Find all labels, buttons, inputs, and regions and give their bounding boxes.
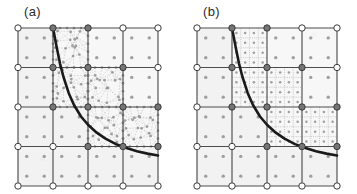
subgrid-node bbox=[270, 81, 273, 84]
subgrid-node bbox=[270, 140, 273, 143]
unstructured-node bbox=[110, 133, 113, 136]
grid-node-filled bbox=[229, 104, 235, 110]
cell-interior-dot bbox=[43, 95, 46, 98]
cell-interior-dot bbox=[25, 135, 28, 138]
cell-interior-dot bbox=[78, 174, 81, 177]
unstructured-node bbox=[84, 74, 87, 77]
subgrid-node bbox=[253, 32, 256, 34]
grid-node-open bbox=[15, 143, 21, 149]
subgrid-node bbox=[270, 121, 273, 124]
grid-cell bbox=[197, 68, 232, 108]
cell-interior-dot bbox=[25, 155, 28, 158]
unstructured-node bbox=[140, 127, 143, 130]
panel-a: (a) bbox=[0, 0, 178, 194]
unstructured-node bbox=[69, 30, 72, 33]
unstructured-node bbox=[56, 97, 59, 100]
cell-interior-dot bbox=[309, 36, 312, 39]
cell-interior-dot bbox=[43, 135, 46, 138]
subgrid-node bbox=[305, 130, 308, 133]
grid-cell bbox=[123, 68, 158, 108]
subgrid-node bbox=[323, 111, 326, 114]
cell-interior-dot bbox=[239, 174, 242, 177]
grid-node-open bbox=[299, 25, 305, 31]
panel-b: (b) bbox=[179, 0, 357, 194]
cell-interior-dot bbox=[204, 115, 207, 118]
grid-cell bbox=[53, 147, 88, 187]
grid-cell bbox=[18, 147, 53, 187]
unstructured-node bbox=[91, 96, 94, 99]
subgrid-node bbox=[253, 61, 256, 64]
grid-cell bbox=[18, 28, 53, 68]
cell-interior-dot bbox=[239, 155, 242, 158]
unstructured-node bbox=[146, 125, 149, 128]
cell-interior-dot bbox=[274, 174, 277, 177]
cell-interior-dot bbox=[292, 56, 295, 59]
grid-node-open bbox=[229, 143, 235, 149]
cell-interior-dot bbox=[327, 76, 330, 79]
cell-interior-dot bbox=[257, 174, 260, 177]
grid-node-filled bbox=[85, 104, 91, 110]
grid-node-filled bbox=[264, 64, 270, 70]
subgrid-node bbox=[244, 101, 247, 104]
cell-interior-dot bbox=[327, 36, 330, 39]
grid-node-open bbox=[85, 183, 91, 189]
subgrid-node bbox=[314, 111, 317, 114]
cell-interior-dot bbox=[327, 56, 330, 59]
cell-interior-dot bbox=[25, 56, 28, 59]
subgrid-node bbox=[279, 71, 282, 74]
cell-interior-dot bbox=[257, 135, 260, 138]
unstructured-node bbox=[98, 79, 101, 82]
unstructured-node bbox=[149, 116, 152, 119]
cell-interior-dot bbox=[239, 135, 242, 138]
unstructured-node bbox=[62, 61, 65, 64]
subgrid-node bbox=[235, 71, 238, 74]
subgrid-node bbox=[331, 140, 334, 143]
unstructured-node bbox=[84, 96, 87, 99]
subgrid-node bbox=[244, 61, 247, 64]
subgrid-node bbox=[235, 81, 238, 84]
grid-cell bbox=[267, 147, 302, 187]
subgrid-node bbox=[261, 61, 264, 64]
subgrid-node bbox=[235, 61, 238, 64]
cell-interior-dot bbox=[257, 155, 260, 158]
unstructured-node bbox=[56, 30, 59, 33]
grid-node-open bbox=[50, 143, 56, 149]
subgrid-node bbox=[288, 121, 291, 124]
cell-interior-dot bbox=[222, 36, 225, 39]
unstructured-node bbox=[70, 81, 73, 84]
subgrid-node bbox=[235, 101, 238, 104]
cell-interior-dot bbox=[309, 174, 312, 177]
unstructured-node bbox=[106, 126, 109, 129]
subgrid-node bbox=[261, 91, 264, 94]
unstructured-node bbox=[90, 79, 93, 82]
subgrid-node bbox=[253, 91, 256, 94]
subgrid-node bbox=[296, 111, 299, 114]
subgrid-node bbox=[314, 121, 317, 124]
unstructured-node bbox=[94, 87, 97, 90]
subgrid-node bbox=[253, 51, 256, 54]
cell-interior-dot bbox=[222, 174, 225, 177]
unstructured-node bbox=[97, 117, 100, 120]
subgrid-node bbox=[270, 71, 273, 74]
cell-interior-dot bbox=[292, 155, 295, 158]
cell-interior-dot bbox=[148, 56, 151, 59]
unstructured-node bbox=[152, 119, 155, 122]
grid-node-filled bbox=[120, 64, 126, 70]
subgrid-node bbox=[288, 81, 291, 84]
grid-node-filled bbox=[264, 104, 270, 110]
unstructured-node bbox=[76, 37, 79, 40]
grid-node-filled bbox=[120, 104, 126, 110]
grid-cell bbox=[302, 68, 337, 108]
subgrid-node bbox=[288, 91, 291, 94]
unstructured-node bbox=[117, 96, 120, 99]
cell-interior-dot bbox=[60, 135, 63, 138]
unstructured-node bbox=[138, 116, 141, 119]
grid-node-open bbox=[194, 143, 200, 149]
unstructured-node bbox=[103, 79, 106, 82]
panel-a-canvas bbox=[18, 28, 158, 186]
unstructured-node bbox=[69, 74, 72, 77]
cell-interior-dot bbox=[78, 155, 81, 158]
grid-cell bbox=[197, 28, 232, 68]
unstructured-node bbox=[132, 138, 135, 141]
cell-interior-dot bbox=[60, 115, 63, 118]
